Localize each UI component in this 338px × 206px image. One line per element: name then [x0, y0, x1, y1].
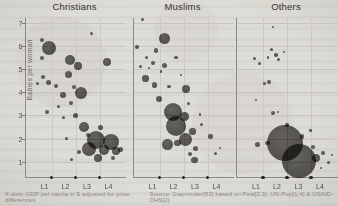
panel-others-plot: L1L2L3L4 [236, 18, 338, 178]
country-bubble [267, 80, 271, 84]
country-bubble [40, 56, 44, 60]
country-bubble [311, 145, 315, 149]
country-bubble [62, 116, 65, 119]
chart-figure: Christians Muslims Others Babies per wom… [0, 0, 338, 206]
x-axis-boundary-dot-1 [261, 176, 265, 180]
country-bubble [283, 51, 285, 53]
country-bubble [258, 62, 261, 65]
x-axis-footnote: X-axis: GDP per capita in $ adjusted for… [5, 191, 149, 203]
panel-title-muslims: Muslims [133, 1, 233, 12]
country-bubble [321, 151, 325, 155]
country-bubble [145, 56, 148, 59]
country-bubble [82, 142, 96, 156]
x-tick-label-L4: L4 [101, 183, 117, 190]
panel-title-others: Others [236, 1, 336, 12]
x-axis-boundary-dot-1 [50, 176, 54, 180]
country-bubble [285, 123, 289, 127]
country-bubble [54, 84, 58, 88]
country-bubble [60, 92, 66, 98]
gridline-x-boundary-1 [263, 18, 264, 177]
y-axis-title: Babies per woman [26, 39, 33, 100]
country-bubble [139, 65, 142, 68]
country-bubble [57, 105, 60, 108]
y-tick-label-6: 6 [9, 43, 23, 50]
y-tick-label-5: 5 [9, 66, 23, 73]
country-bubble [200, 123, 203, 126]
country-bubble [174, 56, 178, 60]
country-bubble [277, 58, 280, 61]
country-bubble [103, 58, 111, 66]
country-bubble [267, 56, 269, 58]
country-bubble [191, 157, 198, 164]
country-bubble [98, 125, 103, 130]
country-bubble [69, 101, 73, 105]
country-bubble [320, 167, 322, 169]
country-bubble [77, 150, 81, 154]
country-bubble [46, 80, 51, 85]
country-bubble [282, 144, 316, 178]
panel-christians-plot: 7654321L1L2L3L4 [25, 18, 126, 178]
x-axis-boundary-dot-2 [182, 176, 186, 180]
country-bubble [189, 128, 196, 135]
x-tick-label-L1: L1 [248, 183, 264, 190]
country-bubble [193, 146, 198, 151]
country-bubble [74, 62, 82, 70]
country-bubble [174, 140, 181, 147]
country-bubble [270, 48, 273, 51]
country-bubble [142, 75, 149, 82]
country-bubble [118, 147, 123, 152]
x-axis-boundary-dot-3 [98, 176, 102, 180]
x-axis-boundary-dot-2 [285, 176, 289, 180]
x-tick-label-L4: L4 [209, 183, 225, 190]
country-bubble [300, 134, 304, 138]
country-bubble [45, 110, 49, 114]
country-bubble [255, 99, 257, 101]
x-tick-label-L1: L1 [37, 183, 53, 190]
country-bubble [65, 71, 72, 78]
x-tick-label-L4: L4 [312, 183, 328, 190]
country-bubble [36, 82, 39, 85]
country-bubble [180, 74, 182, 76]
country-bubble [160, 70, 162, 72]
y-tick-label-1: 1 [9, 159, 23, 166]
country-bubble [86, 133, 90, 137]
country-bubble [154, 48, 159, 53]
x-tick-label-L3: L3 [79, 183, 95, 190]
x-tick-label-L2: L2 [166, 183, 182, 190]
y-tick-label-4: 4 [9, 89, 23, 96]
country-bubble [70, 158, 73, 161]
country-bubble [75, 87, 87, 99]
footer: X-axis: GDP per capita in $ adjusted for… [0, 191, 338, 203]
country-bubble [72, 85, 76, 89]
x-tick-label-L3: L3 [291, 183, 307, 190]
country-bubble [65, 137, 68, 140]
country-bubble [73, 113, 78, 118]
country-bubble [162, 139, 173, 150]
country-bubble [99, 145, 109, 155]
y-tick-label-2: 2 [9, 136, 23, 143]
y-tick-label-3: 3 [9, 112, 23, 119]
y-tick-label-7: 7 [9, 20, 23, 27]
country-bubble [151, 61, 155, 65]
country-bubble [148, 67, 150, 69]
country-bubble [41, 75, 45, 79]
country-bubble [94, 154, 102, 162]
country-bubble [331, 154, 333, 156]
country-bubble [135, 45, 139, 49]
country-bubble [214, 152, 217, 155]
country-bubble [253, 57, 256, 60]
country-bubble [162, 63, 167, 68]
country-bubble [111, 156, 115, 160]
country-bubble [272, 26, 274, 28]
country-bubble [180, 112, 189, 121]
country-bubble [156, 96, 162, 102]
country-bubble [141, 18, 144, 21]
country-bubble [42, 41, 56, 55]
gridline-x-boundary-3 [208, 18, 209, 177]
country-bubble [159, 33, 170, 44]
country-bubble [219, 147, 221, 149]
x-axis-boundary-dot-3 [206, 176, 210, 180]
country-bubble [309, 129, 312, 132]
x-tick-label-L3: L3 [187, 183, 203, 190]
x-axis-boundary-dot-1 [158, 176, 162, 180]
